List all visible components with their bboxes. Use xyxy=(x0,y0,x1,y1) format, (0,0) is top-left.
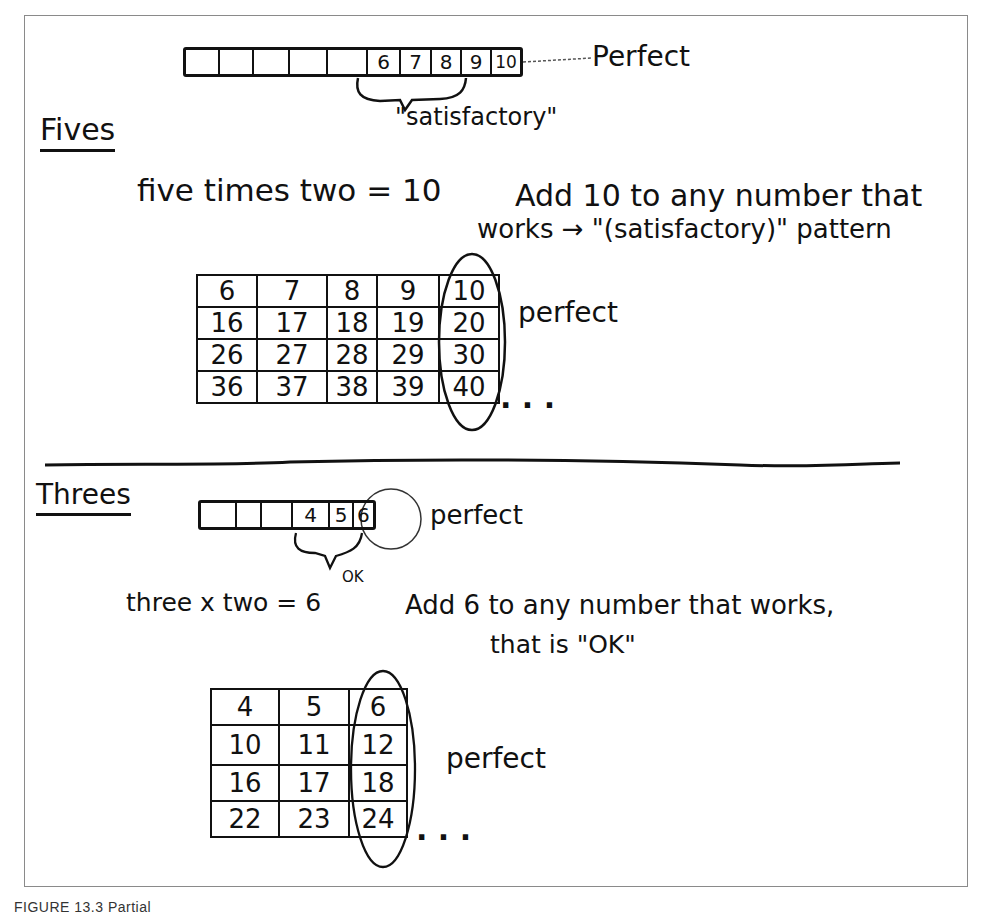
section-divider xyxy=(45,460,900,466)
threes-number-grid: 4 5 6 10 11 12 16 17 18 22 23 24 xyxy=(210,688,408,838)
dotted-arrow-icon xyxy=(523,58,592,62)
strip-cell xyxy=(201,503,237,527)
grid-row: 22 23 24 xyxy=(211,801,407,837)
strip-cell xyxy=(237,503,262,527)
threes-rule-text: Add 6 to any number that works, xyxy=(405,590,834,620)
annotation-strokes xyxy=(0,0,985,914)
grid-cell: 24 xyxy=(349,801,407,837)
threes-strip-perfect-label: perfect xyxy=(430,500,523,530)
grid-cell: 10 xyxy=(211,725,279,765)
grid-cell: 23 xyxy=(279,801,349,837)
grid-row: 4 5 6 xyxy=(211,689,407,725)
grid-cell: 17 xyxy=(279,765,349,801)
threes-rule-text: three x two = 6 xyxy=(126,588,321,617)
threes-heading: Threes xyxy=(36,478,131,516)
threes-number-strip: 4 5 6 xyxy=(198,500,376,530)
strip-cell: 4 xyxy=(293,503,331,527)
highlight-oval-icon xyxy=(439,254,505,430)
strip-cell: 6 xyxy=(354,503,373,527)
grid-cell: 22 xyxy=(211,801,279,837)
threes-grid-perfect-label: perfect xyxy=(446,742,546,775)
figure-caption: FIGURE 13.3 Partial xyxy=(14,899,151,914)
grid-cell: 6 xyxy=(349,689,407,725)
grid-cell: 5 xyxy=(279,689,349,725)
threes-strip-ok-label: OK xyxy=(342,568,364,586)
grid-row: 16 17 18 xyxy=(211,765,407,801)
threes-grid-ellipsis: . . . xyxy=(416,812,471,847)
brace-icon xyxy=(295,533,362,568)
grid-cell: 11 xyxy=(279,725,349,765)
grid-row: 10 11 12 xyxy=(211,725,407,765)
grid-cell: 16 xyxy=(211,765,279,801)
threes-rule-text: that is "OK" xyxy=(490,630,636,659)
strip-cell: 5 xyxy=(330,503,353,527)
brace-icon xyxy=(357,78,466,110)
strip-cell xyxy=(262,503,293,527)
grid-cell: 4 xyxy=(211,689,279,725)
grid-cell: 12 xyxy=(349,725,407,765)
grid-cell: 18 xyxy=(349,765,407,801)
